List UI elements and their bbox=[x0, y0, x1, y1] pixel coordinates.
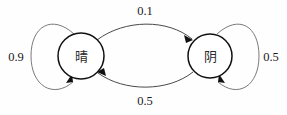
edge-cloudy-to-sunny-path bbox=[98, 72, 193, 87]
node-cloudy[interactable]: 阴 bbox=[188, 34, 232, 78]
node-sunny[interactable]: 晴 bbox=[58, 33, 104, 79]
weight-label-cloudy-to-cloudy: 0.5 bbox=[263, 50, 279, 64]
node-cloudy-label: 阴 bbox=[204, 49, 217, 64]
edge-cloudy-to-sunny bbox=[97, 68, 193, 87]
weight-label-sunny-to-cloudy: 0.1 bbox=[137, 4, 153, 18]
edge-sunny-to-cloudy-path bbox=[97, 24, 192, 40]
weight-label-sunny-to-sunny: 0.9 bbox=[8, 50, 24, 64]
edge-sunny-to-cloudy bbox=[97, 24, 193, 43]
diagram-canvas: 晴 阴 0.9 0.1 0.5 0.5 bbox=[0, 0, 287, 115]
weight-label-cloudy-to-sunny: 0.5 bbox=[137, 94, 153, 108]
state-transition-diagram: 晴 阴 0.9 0.1 0.5 0.5 bbox=[0, 0, 287, 115]
node-sunny-label: 晴 bbox=[75, 49, 88, 64]
